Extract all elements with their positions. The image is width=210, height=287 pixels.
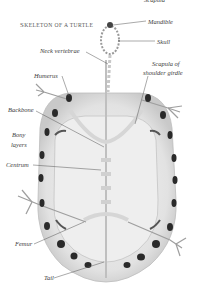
neck-vertebrae [108, 55, 110, 92]
skull [101, 22, 119, 54]
turtle-skeleton-illustration [0, 0, 210, 287]
